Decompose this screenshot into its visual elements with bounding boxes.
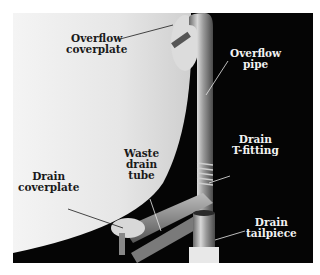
label-drain-t-fitting: Drain T-fitting: [232, 134, 279, 156]
label-line: pipe: [230, 59, 281, 70]
label-waste-drain-tube: Waste drain tube: [124, 148, 159, 181]
label-drain-tailpiece: Drain tailpiece: [246, 217, 297, 239]
label-overflow-coverplate: Overflow coverplate: [66, 33, 127, 55]
label-line: tube: [124, 170, 159, 181]
label-drain-coverplate: Drain coverplate: [18, 171, 79, 193]
label-overflow-pipe: Overflow pipe: [230, 48, 281, 70]
label-line: coverplate: [18, 182, 79, 193]
label-line: tailpiece: [246, 228, 297, 239]
drain-tailpiece-pipe: [193, 213, 215, 249]
drain-coverplate-disc: [111, 218, 145, 238]
label-line: T-fitting: [232, 145, 279, 156]
label-line: coverplate: [66, 44, 127, 55]
